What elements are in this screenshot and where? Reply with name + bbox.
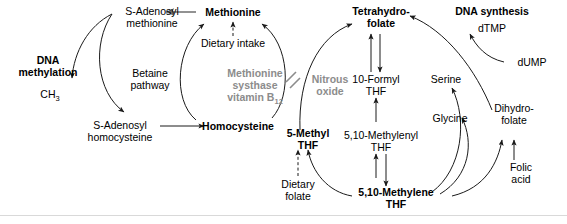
node-methionine-synthase: Methionine systhase vitamin B12 [227,67,283,108]
homocysteine-label: Homocysteine [202,120,274,132]
node-serine: Serine [431,73,461,85]
methionine-synthase-line3: vitamin B12 [227,91,283,108]
node-methionine: Methionine [205,6,260,18]
serine-label: Serine [431,73,461,85]
sah-line1: S-Adenosyl [88,119,153,131]
dna-methylation-line1: DNA [19,54,78,66]
formyl-thf-line2: THF [352,85,399,97]
node-5-10-methylenyl-thf: 5,10-Methylenyl THF [344,129,418,153]
node-5-10-methylene-thf: 5,10-Methylene THF [358,186,433,210]
ch3-subscript: 3 [56,94,60,103]
bottom-divider [0,215,567,216]
sam-line1: S-Adenosyl [125,5,179,17]
dump-label: dUMP [517,56,546,68]
methionine-label: Methionine [205,6,260,18]
dihydrofolate-line1: Dihydro- [494,102,534,114]
node-glycine: Glycine [432,112,467,124]
betaine-line1: Betaine [130,67,169,79]
dietary-folate-line2: folate [281,190,314,202]
node-folic-acid: Folic acid [510,161,532,185]
node-dietary-folate: Dietary folate [281,178,314,202]
ch3-label: CH [40,88,55,100]
thf-line2: folate [352,17,410,29]
5methyl-thf-line1: 5-Methyl [287,127,330,139]
sah-line2: homocysteine [88,131,153,143]
methylenyl-thf-line2: THF [344,141,418,153]
methylenyl-thf-line1: 5,10-Methylenyl [344,129,418,141]
dtmp-label: dTMP [478,22,506,34]
dietary-folate-line1: Dietary [281,178,314,190]
node-10-formyl-thf: 10-Formyl THF [352,73,399,97]
node-dietary-intake: Dietary intake [201,37,265,49]
dna-methylation-line2: methylation [19,66,78,78]
edge-sam-to-ch3 [72,14,112,78]
edge-methylene-to-glycine [440,118,468,194]
methylene-thf-line1: 5,10-Methylene [358,186,433,198]
thf-line1: Tetrahydro- [352,5,410,17]
inhibition-mark-1 [286,72,296,82]
node-nitrous-oxide: Nitrous oxide [312,73,349,97]
betaine-line2: pathway [130,79,169,91]
formyl-thf-line1: 10-Formyl [352,73,399,85]
node-dump: dUMP [517,56,546,68]
node-dna-methylation: DNA methylation [19,54,78,78]
methionine-synthase-line1: Methionine [227,67,283,79]
node-ch3: CH3 [40,88,59,105]
sam-line2: methionine [125,17,179,29]
edge-sam-to-sah [100,14,125,112]
dna-synthesis-label: DNA synthesis [455,5,529,17]
pathway-diagram: DNA methylation CH3 S-Adenosyl methionin… [0,0,567,224]
node-betaine-pathway: Betaine pathway [130,67,169,91]
folic-acid-line2: acid [510,173,532,185]
methylene-thf-line2: THF [358,198,433,210]
methionine-synthase-line2: systhase [227,79,283,91]
vitamin-b-label: vitamin B [227,91,274,103]
node-dtmp: dTMP [478,22,506,34]
edge-dump-to-dtmp [470,34,504,62]
nitrous-oxide-line2: oxide [312,85,349,97]
node-homocysteine: Homocysteine [202,120,274,132]
glycine-label: Glycine [432,112,467,124]
node-dna-synthesis: DNA synthesis [455,5,529,17]
node-s-adenosyl-homocysteine: S-Adenosyl homocysteine [88,119,153,143]
5methyl-thf-line2: THF [287,139,330,151]
node-dihydrofolate: Dihydro- folate [494,102,534,126]
folic-acid-line1: Folic [510,161,532,173]
node-tetrahydrofolate: Tetrahydro- folate [352,5,410,29]
nitrous-oxide-line1: Nitrous [312,73,349,85]
node-s-adenosyl-methionine: S-Adenosyl methionine [125,5,179,29]
node-5-methyl-thf: 5-Methyl THF [287,127,330,151]
edge-methylene-to-dihydrofolate [452,140,502,196]
dihydrofolate-line2: folate [494,114,534,126]
dietary-intake-label: Dietary intake [201,37,265,49]
inhibition-mark-2 [290,78,300,88]
vitamin-b12-subscript: 12 [274,97,282,106]
edge-methylene-to-serine [432,88,461,192]
